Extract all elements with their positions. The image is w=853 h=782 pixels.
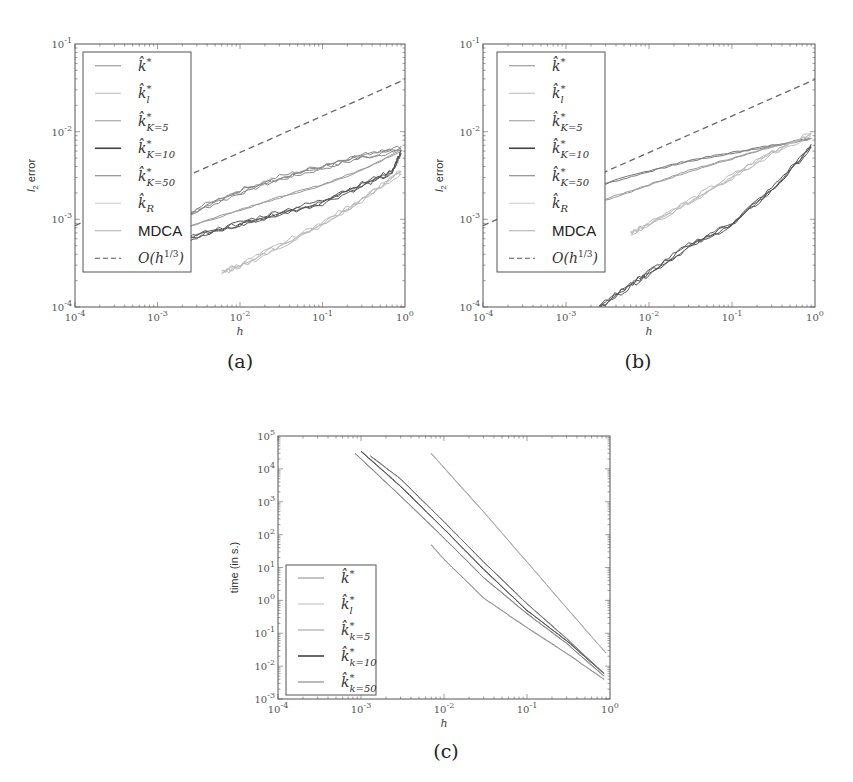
axes: 10-410-310-210-110010-410-310-210-1hl2 e…: [433, 36, 824, 338]
series-line: [361, 452, 604, 674]
chart-b-svg: 10-410-310-210-110010-410-310-210-1hl2 e…: [426, 0, 853, 400]
series-line: [158, 146, 402, 231]
y-tick-label: 10-1: [254, 625, 275, 639]
x-tick-label: 10-3: [147, 309, 168, 323]
caption-a: (a): [210, 350, 270, 372]
y-tick-label: 10-3: [254, 691, 275, 705]
legend: k̂*k̂*lk̂*K=5k̂*K=10k̂*K=50k̂RMDCAO(h1/3…: [83, 52, 191, 272]
caption-c: (c): [416, 740, 476, 762]
y-tick-label: 10-1: [51, 36, 72, 50]
legend-label: MDCA: [138, 222, 182, 239]
y-tick-label: 10-1: [459, 36, 480, 50]
series-line: [599, 147, 811, 308]
legend: k̂*k̂*lk̂*K=5k̂*K=10k̂*K=50k̂RMDCAO(h1/3…: [497, 52, 605, 272]
series-line: [158, 153, 402, 248]
x-tick-label: 10-3: [556, 309, 577, 323]
series-line: [158, 148, 402, 232]
y-tick-label: 105: [257, 428, 275, 442]
legend-label: MDCA: [552, 222, 596, 239]
chart-a-svg: 10-410-310-210-110010-410-310-210-1hl2 e…: [0, 0, 426, 400]
x-tick-label: 10-1: [722, 309, 743, 323]
series-line: [158, 146, 402, 229]
y-tick-label: 10-3: [459, 211, 480, 225]
chart-panel-a: 10-410-310-210-110010-410-310-210-1hl2 e…: [0, 0, 426, 400]
x-tick-label: 10-2: [434, 701, 455, 715]
y-tick-label: 100: [257, 592, 275, 606]
chart-panel-b: 10-410-310-210-110010-410-310-210-1hl2 e…: [426, 0, 853, 400]
chart-panel-c: 10-410-310-210-110010-310-210-1100101102…: [200, 400, 653, 782]
x-tick-label: 10-1: [517, 701, 538, 715]
y-tick-label: 10-3: [51, 211, 72, 225]
series-group: [355, 451, 606, 680]
x-tick-label: 10-2: [230, 309, 251, 323]
caption-b: (b): [608, 350, 668, 372]
legend: k̂*k̂*lk̂*k=5k̂*k=10k̂*k=50: [286, 565, 377, 695]
x-tick-label: 100: [806, 309, 824, 323]
x-tick-label: 10-4: [473, 309, 494, 323]
chart-c-svg: 10-410-310-210-110010-310-210-1100101102…: [200, 400, 653, 782]
x-axis-label: h: [440, 717, 447, 730]
y-tick-label: 104: [257, 461, 275, 475]
y-tick-label: 10-4: [459, 299, 480, 313]
y-tick-label: 103: [257, 494, 275, 508]
y-tick-label: 101: [257, 560, 275, 574]
series-line: [158, 152, 402, 240]
y-tick-label: 10-2: [254, 658, 275, 672]
x-tick-label: 10-4: [65, 309, 86, 323]
y-axis-label: l2 error: [433, 159, 448, 193]
x-tick-label: 10-2: [639, 309, 660, 323]
x-tick-label: 10-1: [312, 309, 333, 323]
x-tick-label: 100: [601, 701, 619, 715]
series-line: [371, 456, 605, 673]
x-axis-label: h: [645, 325, 652, 338]
series-line: [431, 453, 606, 653]
series-line: [599, 146, 811, 306]
y-tick-label: 10-2: [51, 124, 72, 138]
x-tick-label: 100: [396, 309, 414, 323]
series-line: [158, 150, 402, 232]
x-axis-label: h: [236, 325, 243, 338]
y-tick-label: 10-4: [51, 299, 72, 313]
series-line: [431, 545, 604, 680]
y-axis-label: time (in s.): [228, 542, 240, 593]
x-tick-label: 10-4: [268, 701, 289, 715]
x-tick-label: 10-3: [351, 701, 372, 715]
series-line: [431, 544, 604, 679]
y-axis-label: l2 error: [25, 159, 40, 193]
y-tick-label: 10-2: [459, 124, 480, 138]
y-tick-label: 102: [257, 527, 275, 541]
